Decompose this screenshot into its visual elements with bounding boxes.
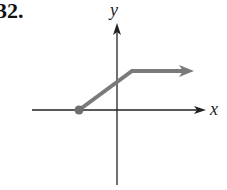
graph-line: [79, 71, 183, 110]
closed-dot-icon: [75, 106, 84, 115]
axes: [32, 23, 206, 185]
graph-canvas: [0, 0, 227, 190]
graph-series: [75, 65, 195, 115]
